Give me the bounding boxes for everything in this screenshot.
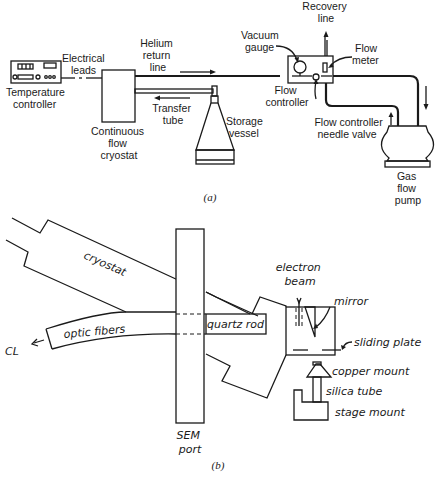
transfer-tube	[135, 89, 213, 93]
sem-port-label: SEM port	[177, 429, 204, 456]
transfer-tube-label: Transfer tube	[152, 102, 194, 126]
figure-a: Temperature controller Electrical leads …	[6, 0, 434, 206]
cl-label: CL	[5, 345, 19, 358]
sem-port	[176, 229, 204, 423]
silica-tube	[313, 377, 321, 402]
temperature-controller-device	[11, 61, 61, 83]
optic-fibers-label: optic fibers	[63, 323, 126, 341]
mirror-label: mirror	[334, 295, 370, 308]
figure-b-caption: (b)	[212, 459, 225, 472]
diagram-canvas: Temperature controller Electrical leads …	[0, 0, 441, 477]
quartz-rod-label: quartz rod	[207, 318, 265, 331]
vacuum-gauge-label: Vacuum gauge	[241, 29, 282, 53]
flow-meter-gauge	[323, 63, 327, 72]
mirror	[305, 307, 315, 337]
silica-tube-label: silica tube	[326, 385, 382, 398]
figure-a-caption: (a)	[204, 191, 217, 204]
gas-flow-pump-label: Gas flow pump	[395, 170, 421, 206]
sample-chamber	[286, 307, 335, 355]
flow-meter-label: Flow meter	[352, 42, 380, 66]
continuous-flow-cryostat-box	[102, 70, 135, 122]
temperature-controller-label: Temperature controller	[6, 86, 68, 110]
recovery-line-label: Recovery line	[302, 0, 349, 24]
stage-mount-label: stage mount	[335, 406, 405, 419]
copper-mount	[307, 364, 331, 377]
electrical-leads-label: Electrical leads	[62, 52, 108, 76]
sliding-plate-label: sliding plate	[354, 336, 421, 349]
vacuum-gauge-dial	[294, 61, 306, 73]
helium-return-line-label: Helium return line	[140, 37, 176, 73]
storage-vessel-label: Storage vessel	[226, 115, 266, 139]
flow-controller-label: Flow controller	[265, 84, 309, 108]
gas-flow-pump	[381, 126, 433, 167]
cryostat-body	[6, 218, 258, 316]
continuous-flow-cryostat-label: Continuous flow cryostat	[91, 125, 147, 161]
electron-beam-label: electron beam	[276, 261, 325, 288]
figure-b: cryostat optic fibers CL SEM port quartz…	[5, 218, 421, 472]
needle-valve-label: Flow controller needle valve	[314, 116, 385, 140]
copper-mount-label: copper mount	[332, 365, 410, 378]
stage-mount	[294, 390, 328, 420]
